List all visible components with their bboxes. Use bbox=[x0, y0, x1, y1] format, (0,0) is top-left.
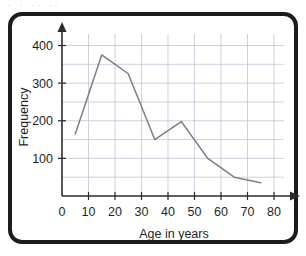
x-axis-title: Age in years bbox=[139, 227, 208, 241]
tick-marks bbox=[58, 46, 274, 200]
x-tick-label: 50 bbox=[188, 205, 202, 219]
x-tick-label: 20 bbox=[108, 205, 122, 219]
figure-frame: 01020304050607080 100200300400 Age in ye… bbox=[8, 12, 298, 244]
x-tick-label: 30 bbox=[135, 205, 149, 219]
scan-edge-artifact: · · ·· ·· bbox=[8, 0, 128, 12]
y-tick-labels: 100200300400 bbox=[32, 39, 53, 166]
x-tick-label: 80 bbox=[267, 205, 281, 219]
x-tick-label: 70 bbox=[241, 205, 255, 219]
chart-svg: 01020304050607080 100200300400 Age in ye… bbox=[12, 16, 302, 248]
x-tick-labels: 01020304050607080 bbox=[59, 205, 281, 219]
y-tick-label: 100 bbox=[32, 152, 53, 166]
y-tick-label: 200 bbox=[32, 114, 53, 128]
x-tick-label: 60 bbox=[214, 205, 228, 219]
axes bbox=[58, 22, 301, 201]
x-tick-label: 40 bbox=[161, 205, 175, 219]
x-tick-label: 0 bbox=[59, 205, 66, 219]
y-axis-arrow-icon bbox=[58, 22, 67, 32]
line-chart: 01020304050607080 100200300400 Age in ye… bbox=[12, 16, 302, 248]
y-tick-label: 400 bbox=[32, 39, 53, 53]
x-tick-label: 10 bbox=[82, 205, 96, 219]
x-axis-arrow-icon bbox=[290, 192, 300, 201]
gridlines bbox=[62, 34, 284, 196]
y-tick-label: 300 bbox=[32, 77, 53, 91]
y-axis-title: Frequency bbox=[17, 87, 31, 147]
